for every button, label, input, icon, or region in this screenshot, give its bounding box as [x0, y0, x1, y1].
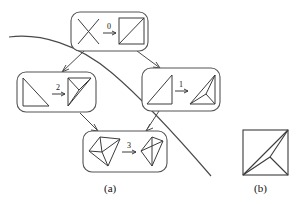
- node-3-arrow-label: 3: [127, 141, 131, 150]
- node-1[interactable]: 1: [142, 68, 220, 111]
- figure-container: 0 2: [0, 0, 297, 204]
- node-2-arrow-label: 2: [56, 83, 60, 92]
- edge-node2-node3: [80, 113, 98, 131]
- node-0[interactable]: 0: [71, 12, 148, 51]
- caption-a: (a): [104, 183, 116, 194]
- edge-node0-node1: [137, 51, 160, 68]
- node-1-arrow-label: 1: [179, 80, 183, 89]
- figure-svg: 0 2: [0, 0, 297, 204]
- node-3[interactable]: 3: [83, 131, 167, 172]
- panel-b-shape: [243, 130, 288, 175]
- caption-b: (b): [254, 183, 267, 194]
- node-0-arrow-label: 0: [107, 22, 111, 31]
- edge-node1-node3: [146, 111, 159, 131]
- edge-node0-node2: [62, 51, 84, 72]
- node-2[interactable]: 2: [17, 72, 96, 112]
